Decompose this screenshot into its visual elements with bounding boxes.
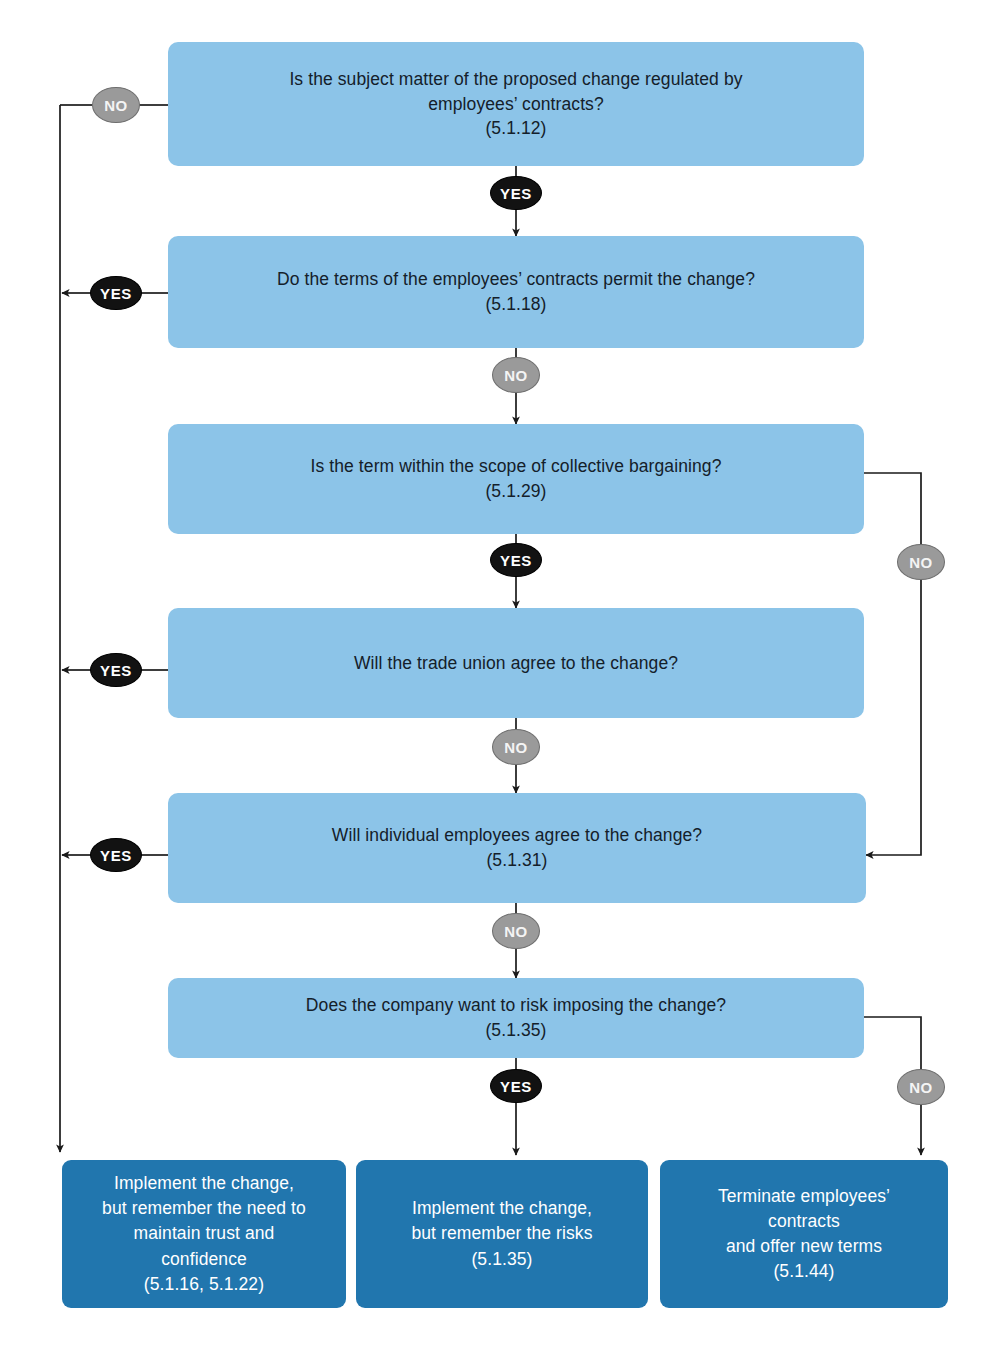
- branch-badge-label: YES: [500, 185, 532, 202]
- branch-badge-yes-d5[interactable]: YES: [90, 838, 142, 872]
- decision-node-risk-imposing[interactable]: Does the company want to risk imposing t…: [168, 978, 864, 1058]
- branch-badge-label: YES: [100, 847, 132, 864]
- terminal-node-text: Implement the change, but remember the n…: [102, 1171, 306, 1297]
- branch-badge-no-d2[interactable]: NO: [492, 357, 540, 393]
- decision-node-text: Do the terms of the employees’ contracts…: [277, 267, 755, 317]
- terminal-node-implement-trust-confidence[interactable]: Implement the change, but remember the n…: [62, 1160, 346, 1308]
- branch-badge-label: YES: [500, 1078, 532, 1095]
- decision-node-text: Is the term within the scope of collecti…: [310, 454, 721, 504]
- branch-badge-yes-d2[interactable]: YES: [90, 276, 142, 310]
- branch-badge-label: NO: [104, 97, 128, 114]
- page-header-fragment: [0, 0, 1006, 6]
- wire-d3-no-b: [866, 578, 921, 855]
- branch-badge-yes-d1[interactable]: YES: [490, 176, 542, 210]
- decision-node-text: Will individual employees agree to the c…: [332, 823, 702, 873]
- branch-badge-label: YES: [500, 552, 532, 569]
- branch-badge-label: NO: [504, 367, 528, 384]
- terminal-node-implement-risks[interactable]: Implement the change, but remember the r…: [356, 1160, 648, 1308]
- decision-node-text: Does the company want to risk imposing t…: [306, 993, 726, 1043]
- branch-badge-label: NO: [909, 554, 933, 571]
- wire-d6-no-a: [864, 1017, 921, 1070]
- branch-badge-yes-d6[interactable]: YES: [490, 1069, 542, 1103]
- decision-node-text: Will the trade union agree to the change…: [354, 651, 678, 676]
- branch-badge-yes-d4[interactable]: YES: [90, 653, 142, 687]
- branch-badge-no-d6[interactable]: NO: [897, 1069, 945, 1105]
- terminal-node-terminate-contracts[interactable]: Terminate employees’ contracts and offer…: [660, 1160, 948, 1308]
- branch-badge-no-d5[interactable]: NO: [492, 913, 540, 949]
- decision-node-individual-employees[interactable]: Will individual employees agree to the c…: [168, 793, 866, 903]
- branch-badge-label: YES: [100, 285, 132, 302]
- terminal-node-text: Terminate employees’ contracts and offer…: [718, 1184, 890, 1285]
- branch-badge-label: NO: [504, 739, 528, 756]
- branch-badge-no-d1[interactable]: NO: [92, 87, 140, 123]
- decision-node-trade-union[interactable]: Will the trade union agree to the change…: [168, 608, 864, 718]
- terminal-node-text: Implement the change, but remember the r…: [411, 1196, 592, 1272]
- branch-badge-no-d4[interactable]: NO: [492, 729, 540, 765]
- decision-node-subject-matter[interactable]: Is the subject matter of the proposed ch…: [168, 42, 864, 166]
- decision-node-text: Is the subject matter of the proposed ch…: [289, 67, 742, 142]
- wire-d3-no-a: [864, 473, 921, 546]
- decision-node-contract-terms[interactable]: Do the terms of the employees’ contracts…: [168, 236, 864, 348]
- branch-badge-label: YES: [100, 662, 132, 679]
- flowchart-canvas: Is the subject matter of the proposed ch…: [0, 0, 1006, 1364]
- branch-badge-label: NO: [909, 1079, 933, 1096]
- decision-node-collective-bargaining[interactable]: Is the term within the scope of collecti…: [168, 424, 864, 534]
- branch-badge-yes-d3[interactable]: YES: [490, 543, 542, 577]
- branch-badge-label: NO: [504, 923, 528, 940]
- branch-badge-no-d3[interactable]: NO: [897, 544, 945, 580]
